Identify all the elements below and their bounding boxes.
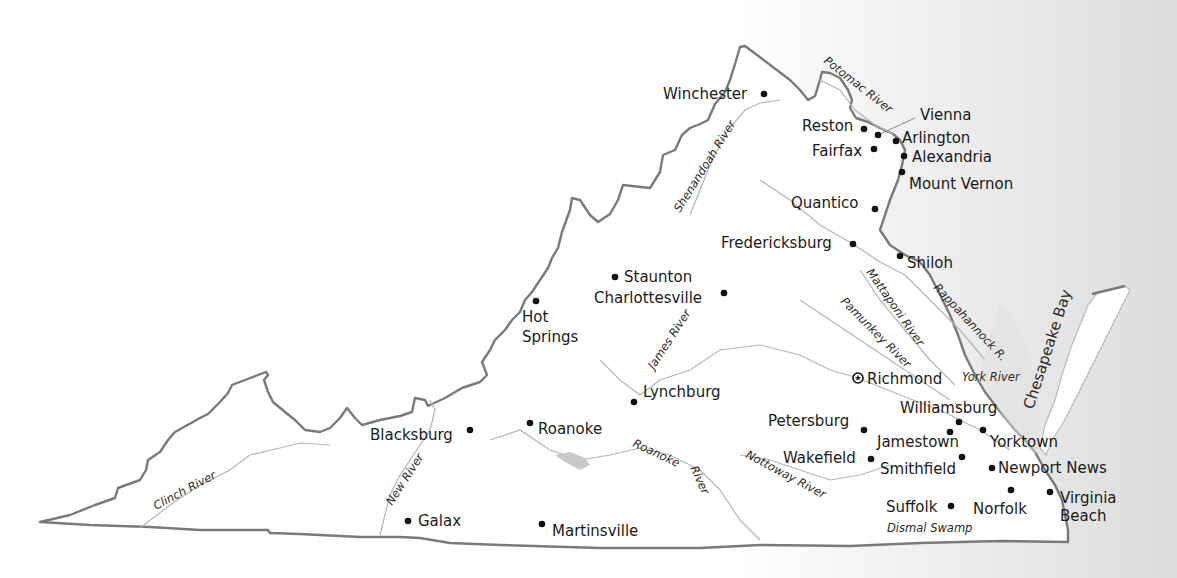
roanoke-dot[interactable] — [527, 420, 534, 427]
blacksburg-dot[interactable] — [467, 427, 474, 434]
norfolk-dot[interactable] — [1008, 487, 1015, 494]
label-galax: Galax — [418, 512, 461, 530]
martinsville-dot[interactable] — [539, 521, 546, 528]
label-norfolk: Norfolk — [973, 500, 1027, 518]
label-shiloh: Shiloh — [907, 254, 953, 272]
suffolk-dot[interactable] — [948, 503, 955, 510]
williamsburg-dot[interactable] — [956, 419, 963, 426]
label-roanoke: Roanoke — [538, 420, 602, 438]
label-richmond: Richmond — [867, 370, 942, 388]
label-quantico: Quantico — [791, 194, 859, 212]
shiloh-dot[interactable] — [897, 253, 904, 260]
label-virginia-beach-1: Virginia — [1060, 489, 1117, 507]
virginia-map: Winchester Reston Vienna Arlington Fairf… — [0, 0, 1177, 578]
mount-vernon-dot[interactable] — [899, 169, 906, 176]
label-suffolk: Suffolk — [886, 498, 938, 516]
vienna-dot[interactable] — [875, 132, 882, 139]
label-charlottesville: Charlottesville — [594, 289, 702, 307]
label-reston: Reston — [802, 117, 853, 135]
label-staunton: Staunton — [624, 268, 692, 286]
virginia-beach-dot[interactable] — [1047, 489, 1054, 496]
petersburg-dot[interactable] — [861, 427, 868, 434]
capital-star-icon[interactable] — [853, 373, 863, 383]
label-fredericksburg: Fredericksburg — [721, 234, 832, 252]
smithfield-dot[interactable] — [959, 454, 966, 461]
label-newport-news: Newport News — [998, 459, 1107, 477]
label-virginia-beach-2: Beach — [1060, 507, 1106, 525]
alexandria-dot[interactable] — [901, 153, 908, 160]
label-hot-springs-1: Hot — [522, 308, 548, 326]
label-wakefield: Wakefield — [783, 449, 856, 467]
quantico-dot[interactable] — [872, 206, 879, 213]
label-york-river: York River — [962, 370, 1021, 384]
wakefield-dot[interactable] — [868, 456, 875, 463]
fredericksburg-dot[interactable] — [850, 241, 857, 248]
galax-dot[interactable] — [405, 518, 412, 525]
label-blacksburg: Blacksburg — [370, 426, 453, 444]
label-alexandria: Alexandria — [912, 148, 992, 166]
label-lynchburg: Lynchburg — [643, 383, 721, 401]
staunton-dot[interactable] — [612, 274, 619, 281]
label-dismal-swamp: Dismal Swamp — [887, 521, 972, 535]
label-mount-vernon: Mount Vernon — [909, 175, 1013, 193]
label-vienna: Vienna — [920, 106, 972, 124]
fairfax-dot[interactable] — [871, 146, 878, 153]
label-winchester: Winchester — [663, 85, 748, 103]
label-petersburg: Petersburg — [768, 412, 849, 430]
label-hot-springs-2: Springs — [522, 328, 578, 346]
lynchburg-dot[interactable] — [631, 399, 638, 406]
label-fairfax: Fairfax — [812, 142, 862, 160]
arlington-dot[interactable] — [893, 138, 900, 145]
label-yorktown: Yorktown — [989, 433, 1058, 451]
label-martinsville: Martinsville — [552, 522, 638, 540]
newport-news-dot[interactable] — [989, 465, 996, 472]
charlottesville-dot[interactable] — [721, 290, 728, 297]
label-smithfield: Smithfield — [880, 460, 956, 478]
reston-dot[interactable] — [861, 126, 868, 133]
hot-springs-dot[interactable] — [533, 298, 540, 305]
winchester-dot[interactable] — [761, 91, 768, 98]
yorktown-dot[interactable] — [980, 427, 987, 434]
label-jamestown: Jamestown — [876, 433, 959, 451]
label-williamsburg: Williamsburg — [900, 399, 997, 417]
label-arlington: Arlington — [902, 129, 970, 147]
